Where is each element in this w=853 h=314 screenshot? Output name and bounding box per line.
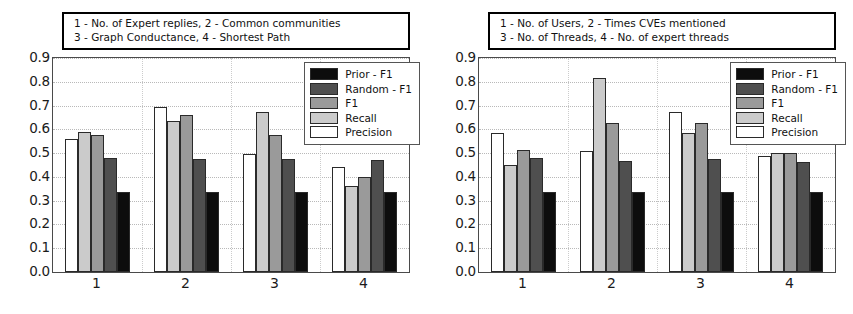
bar-f1-2 xyxy=(606,123,619,272)
bar-f1-3 xyxy=(269,135,282,272)
y-axis-tick-0-7: 0.7 xyxy=(430,97,476,113)
legend-swatch-random-f1 xyxy=(736,83,764,95)
y-axis-tick-0-2: 0.2 xyxy=(4,215,50,231)
bar-group-2 xyxy=(154,58,220,272)
legend-swatch-recall xyxy=(310,112,338,124)
bar-prior-f1-2 xyxy=(632,192,645,272)
gridline-vertical xyxy=(568,58,569,272)
chart-title-box-left: 1 - No. of Expert replies, 2 - Common co… xyxy=(62,12,410,50)
bar-f1-1 xyxy=(517,150,530,272)
legend-item-recall: Recall xyxy=(310,111,412,126)
y-axis-tick-0-6: 0.6 xyxy=(430,120,476,136)
bar-random-f1-2 xyxy=(619,161,632,272)
bar-prior-f1-2 xyxy=(206,192,219,272)
chart-title-line-2: 3 - No. of Threads, 4 - No. of expert th… xyxy=(500,31,828,45)
legend-item-random-f1: Random - F1 xyxy=(736,82,838,97)
legend-swatch-f1 xyxy=(736,97,764,109)
y-axis-tick-0-2: 0.2 xyxy=(430,215,476,231)
bar-prior-f1-4 xyxy=(810,192,823,272)
bar-precision-1 xyxy=(491,133,504,272)
y-axis-tick-0-4: 0.4 xyxy=(4,168,50,184)
legend-label-random-f1: Random - F1 xyxy=(345,83,412,95)
y-axis-tick-0-3: 0.3 xyxy=(430,192,476,208)
legend-label-random-f1: Random - F1 xyxy=(771,83,838,95)
x-axis-tick-2: 2 xyxy=(592,275,632,291)
gridline-vertical xyxy=(657,58,658,272)
bar-prior-f1-4 xyxy=(384,192,397,272)
bar-precision-4 xyxy=(332,167,345,272)
bar-precision-1 xyxy=(65,139,78,272)
legend-swatch-precision xyxy=(736,126,764,138)
bar-random-f1-4 xyxy=(797,162,810,272)
legend-swatch-prior-f1 xyxy=(736,68,764,80)
bar-prior-f1-1 xyxy=(543,192,556,272)
legend-swatch-prior-f1 xyxy=(310,68,338,80)
bar-prior-f1-3 xyxy=(721,192,734,272)
bar-recall-4 xyxy=(771,153,784,272)
x-axis-tick-labels-left: 1234 xyxy=(52,275,410,301)
bar-recall-1 xyxy=(504,165,517,272)
bar-prior-f1-3 xyxy=(295,192,308,272)
x-axis-tick-1: 1 xyxy=(77,275,117,291)
bar-group-1 xyxy=(491,58,557,272)
x-axis-tick-1: 1 xyxy=(503,275,543,291)
bar-f1-1 xyxy=(91,135,104,272)
chart-panel-right: 1 - No. of Users, 2 - Times CVEs mention… xyxy=(426,0,852,314)
bar-random-f1-3 xyxy=(708,159,721,272)
chart-title-line-2: 3 - Graph Conductance, 4 - Shortest Path xyxy=(74,31,402,45)
bar-recall-3 xyxy=(256,112,269,273)
y-axis-tick-0-9: 0.9 xyxy=(430,49,476,65)
y-axis-tick-0-5: 0.5 xyxy=(430,144,476,160)
bar-random-f1-3 xyxy=(282,159,295,272)
legend-swatch-random-f1 xyxy=(310,83,338,95)
bar-recall-1 xyxy=(78,132,91,272)
legend-swatch-f1 xyxy=(310,97,338,109)
legend-swatch-recall xyxy=(736,112,764,124)
x-axis-tick-4: 4 xyxy=(770,275,810,291)
chart-title-box-right: 1 - No. of Users, 2 - Times CVEs mention… xyxy=(488,12,836,50)
bar-f1-4 xyxy=(358,177,371,272)
bar-precision-4 xyxy=(758,156,771,273)
legend-label-f1: F1 xyxy=(345,97,358,109)
bar-precision-3 xyxy=(669,112,682,273)
y-axis-tick-labels-right: 0.00.10.20.30.40.50.60.70.80.9 xyxy=(426,57,476,273)
legend-item-random-f1: Random - F1 xyxy=(310,82,412,97)
y-axis-tick-0-8: 0.8 xyxy=(4,73,50,89)
legend-label-f1: F1 xyxy=(771,97,784,109)
figure-two-bar-charts: 1 - No. of Expert replies, 2 - Common co… xyxy=(0,0,853,314)
y-axis-tick-0-1: 0.1 xyxy=(4,239,50,255)
legend-right: Prior - F1Random - F1F1RecallPrecision xyxy=(730,62,846,145)
bar-prior-f1-1 xyxy=(117,192,130,272)
legend-label-recall: Recall xyxy=(345,112,376,124)
bar-recall-2 xyxy=(167,121,180,272)
legend-label-prior-f1: Prior - F1 xyxy=(771,68,818,80)
y-axis-tick-0-9: 0.9 xyxy=(4,49,50,65)
bar-group-3 xyxy=(243,58,309,272)
legend-label-precision: Precision xyxy=(771,126,818,138)
legend-item-prior-f1: Prior - F1 xyxy=(310,67,412,82)
y-axis-tick-0-0: 0.0 xyxy=(430,263,476,279)
legend-label-precision: Precision xyxy=(345,126,392,138)
legend-item-f1: F1 xyxy=(736,96,838,111)
legend-item-prior-f1: Prior - F1 xyxy=(736,67,838,82)
bar-random-f1-1 xyxy=(104,158,117,272)
gridline-vertical xyxy=(142,58,143,272)
bar-random-f1-1 xyxy=(530,158,543,272)
legend-label-prior-f1: Prior - F1 xyxy=(345,68,392,80)
legend-left: Prior - F1Random - F1F1RecallPrecision xyxy=(304,62,420,145)
chart-title-line-1: 1 - No. of Expert replies, 2 - Common co… xyxy=(74,17,402,31)
bar-f1-4 xyxy=(784,153,797,272)
y-axis-tick-0-4: 0.4 xyxy=(430,168,476,184)
x-axis-tick-2: 2 xyxy=(166,275,206,291)
bar-precision-2 xyxy=(154,107,167,272)
x-axis-tick-labels-right: 1234 xyxy=(478,275,836,301)
x-axis-tick-3: 3 xyxy=(681,275,721,291)
bar-recall-3 xyxy=(682,133,695,272)
legend-item-precision: Precision xyxy=(310,125,412,140)
y-axis-tick-0-8: 0.8 xyxy=(430,73,476,89)
chart-panel-left: 1 - No. of Expert replies, 2 - Common co… xyxy=(0,0,426,314)
bar-precision-3 xyxy=(243,154,256,272)
bar-recall-2 xyxy=(593,78,606,272)
legend-item-recall: Recall xyxy=(736,111,838,126)
x-axis-tick-3: 3 xyxy=(255,275,295,291)
